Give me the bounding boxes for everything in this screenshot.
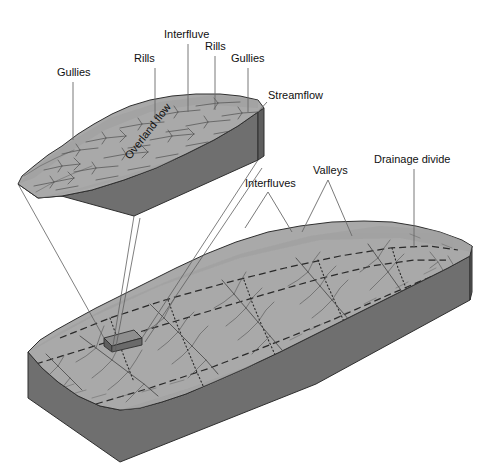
lower-block — [28, 221, 472, 462]
label-streamflow: Streamflow — [268, 89, 323, 101]
label-rills-left: Rills — [134, 52, 155, 64]
figure-root: Overland flow Gullies Rills Interfluve R… — [0, 0, 504, 471]
label-drainage-divide: Drainage divide — [374, 153, 450, 165]
projection-line-left — [18, 184, 104, 338]
upper-block: Overland flow — [18, 94, 264, 216]
upper-block-right-face — [258, 108, 264, 160]
label-valleys: Valleys — [313, 164, 348, 176]
leader-interfluves — [245, 192, 292, 232]
label-gullies-right: Gullies — [231, 52, 265, 64]
label-interfluve: Interfluve — [164, 28, 209, 40]
label-gullies-left: Gullies — [57, 66, 91, 78]
block-diagram-canvas: Overland flow Gullies Rills Interfluve R… — [0, 0, 504, 471]
label-rills-right: Rills — [205, 40, 226, 52]
label-interfluves: Interfluves — [245, 177, 296, 189]
